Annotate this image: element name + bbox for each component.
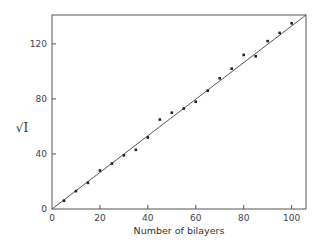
data-point [111,162,114,165]
x-tick-label: 100 [283,213,300,223]
y-tick-label: 120 [30,39,47,49]
x-tick-label: 80 [238,213,250,223]
data-point [242,54,245,57]
data-point [218,77,221,80]
data-point [75,190,78,193]
y-axis-label: √I [16,121,29,135]
y-tick-label: 40 [36,149,48,159]
fit-line [52,15,306,209]
y-tick-label: 80 [36,94,48,104]
data-point [290,22,293,25]
data-point [266,40,269,43]
data-point [230,67,233,70]
scatter-chart: 02040608010004080120 Number of bilayers … [0,0,324,250]
data-points [63,22,293,202]
data-point [278,32,281,35]
y-tick-label: 0 [41,204,47,214]
x-tick-label: 60 [190,213,202,223]
x-tick-label: 20 [94,213,106,223]
data-point [123,154,126,157]
data-point [194,100,197,103]
x-tick-label: 40 [142,213,154,223]
data-point [135,149,138,152]
data-point [147,136,150,139]
data-point [254,55,257,58]
data-point [171,111,174,114]
data-point [206,89,209,92]
data-point [182,107,185,110]
x-tick-label: 0 [49,213,55,223]
data-point [63,199,66,202]
data-point [99,169,102,172]
x-axis-label: Number of bilayers [134,225,225,236]
data-point [159,118,162,121]
data-point [87,182,90,185]
